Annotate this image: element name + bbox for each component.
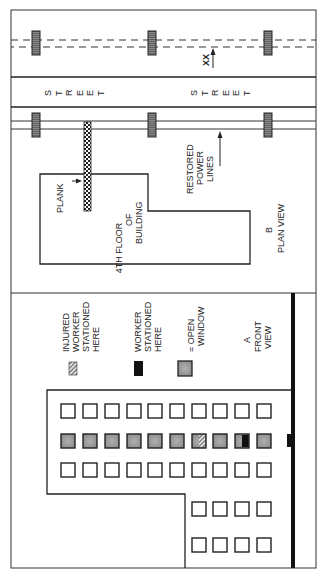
plan-view-letter: B [264, 227, 274, 233]
street-letter: R [210, 89, 220, 96]
window [83, 463, 97, 477]
arrowhead-icon [211, 48, 216, 55]
street-letter: S [43, 90, 53, 96]
window-row-5 [192, 538, 271, 552]
open-window [213, 434, 227, 448]
window [213, 463, 227, 477]
legend-open-window-line1: = OPEN [186, 319, 196, 352]
front-view: INJURED WORKER STATIONED HERE WORKER STA… [47, 293, 295, 568]
window [235, 538, 249, 552]
window [148, 463, 162, 477]
power-label-line1: RESTORED [185, 144, 195, 194]
window [257, 502, 271, 516]
open-window [105, 434, 119, 448]
worker-marker [242, 435, 249, 447]
arrowhead-icon [218, 131, 223, 138]
legend-worker-line2: STATIONED [143, 301, 153, 352]
open-window [170, 434, 184, 448]
window [235, 463, 249, 477]
street-letter: E [221, 90, 231, 96]
window [170, 404, 184, 418]
window [213, 538, 227, 552]
xx-marker: XX [201, 48, 216, 68]
power-label-line3: LINES [205, 156, 215, 182]
window [170, 463, 184, 477]
legend-worker-line3: HERE [153, 327, 163, 352]
front-view-caption-line2: VIEW [263, 325, 273, 349]
building-outline-plan [40, 174, 250, 264]
window [148, 404, 162, 418]
window-row-4 [192, 502, 271, 516]
street-letter: T [242, 90, 252, 96]
plank-label: PLANK [55, 183, 65, 213]
window [61, 404, 75, 418]
window-row-1 [61, 404, 271, 418]
window [83, 404, 97, 418]
injured-worker-marker [199, 435, 205, 447]
window [61, 463, 75, 477]
window [105, 404, 119, 418]
window [127, 404, 141, 418]
window [257, 404, 271, 418]
building-label-line2: OF [124, 213, 134, 226]
legend-injured-line1: INJURED [61, 312, 71, 352]
street-letter: T [200, 90, 210, 96]
power-label-line2: POWER [195, 150, 205, 185]
legend-worker-swatch [134, 361, 143, 376]
plank [84, 122, 91, 211]
window-row-2-open [61, 434, 271, 448]
window [235, 502, 249, 516]
open-window [83, 434, 97, 448]
legend: INJURED WORKER STATIONED HERE WORKER STA… [61, 301, 206, 376]
ground-worker-marker [287, 434, 293, 447]
window [213, 502, 227, 516]
window [192, 502, 206, 516]
window [192, 538, 206, 552]
utility-pole-icon [148, 31, 156, 55]
window [235, 404, 249, 418]
front-view-letter: A [242, 337, 252, 343]
street-letter: T [96, 90, 106, 96]
arrowhead-icon [76, 179, 82, 184]
window [192, 463, 206, 477]
window [257, 463, 271, 477]
open-window [127, 434, 141, 448]
utility-pole-icon [264, 113, 272, 137]
window [105, 463, 119, 477]
building-label-line3: BUILDING [134, 201, 144, 244]
legend-injured-line3: STATIONED [81, 301, 91, 352]
street-letter: E [85, 90, 95, 96]
window [213, 404, 227, 418]
legend-worker-line1: WORKER [133, 311, 143, 352]
xx-label: XX [201, 54, 211, 66]
street-letter: S [189, 90, 199, 96]
open-window [257, 434, 271, 448]
ground-line [291, 293, 295, 568]
legend-injured-line2: WORKER [71, 311, 81, 352]
window-row-3 [61, 463, 271, 477]
street-label-left: S T R E E T [43, 89, 106, 96]
street-letter: R [64, 89, 74, 96]
open-window [148, 434, 162, 448]
legend-injured-swatch [69, 362, 77, 375]
accident-diagram: XX S T R E E T S T R E E T PLANK 4TH FLO… [0, 0, 328, 577]
window [192, 404, 206, 418]
utility-pole-icon [148, 113, 156, 137]
street-letter: E [231, 90, 241, 96]
utility-pole-icon [264, 31, 272, 55]
legend-injured-line4: HERE [91, 327, 101, 352]
plan-view-caption: PLAN VIEW [276, 203, 286, 253]
utility-pole-icon [32, 31, 40, 55]
utility-pole-icon [32, 113, 40, 137]
plan-view: XX S T R E E T S T R E E T PLANK 4TH FLO… [11, 31, 316, 273]
street-letter: E [75, 90, 85, 96]
window [257, 538, 271, 552]
legend-open-window-line2: WINDOW [196, 306, 206, 346]
building-label-line1: 4TH FLOOR [114, 222, 124, 273]
open-window [61, 434, 75, 448]
front-view-caption-line1: FRONT [253, 321, 263, 352]
legend-open-window-swatch [178, 361, 192, 376]
street-letter: T [54, 90, 64, 96]
window [127, 463, 141, 477]
street-label-right: S T R E E T [189, 89, 252, 96]
